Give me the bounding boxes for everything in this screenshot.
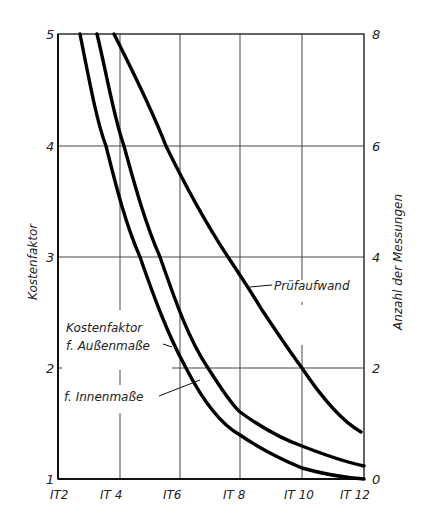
- y-tick-left-1: 1: [46, 472, 54, 487]
- x-tick-it8: IT 8: [223, 488, 246, 502]
- y-tick-left-5: 5: [46, 27, 54, 42]
- label-backdrop: [299, 305, 305, 345]
- x-tick-it2: IT2: [50, 488, 69, 502]
- annotation-kostenfaktor: Kostenfaktor: [66, 321, 143, 335]
- y-tick-right-4: 4: [372, 250, 380, 265]
- x-tick-it12: IT 12: [340, 488, 370, 502]
- annotation-pruefaufwand: Prüfaufwand: [274, 279, 350, 293]
- x-tick-it6: IT6: [163, 488, 182, 502]
- x-tick-it4: IT 4: [100, 488, 122, 502]
- annotation-innenmasse: f. Innenmaße: [64, 390, 143, 404]
- y-tick-right-6: 6: [372, 139, 380, 154]
- y-tick-right-2: 2: [372, 361, 380, 376]
- annotation-aussenmasse: f. Außenmaße: [66, 339, 150, 353]
- y-tick-left-2: 2: [46, 361, 54, 376]
- y-tick-right-0: 0: [372, 472, 380, 487]
- y-axis-right-title: Anzahl der Messungen: [391, 194, 405, 331]
- y-tick-left-3: 3: [46, 250, 54, 265]
- y-tick-right-8: 8: [372, 27, 380, 42]
- chart-canvas: 5 4 3 2 1 8 6 4 2 0 IT2 IT 4 IT6 IT 8 IT…: [0, 0, 424, 518]
- y-axis-left-title: Kostenfaktor: [26, 223, 40, 300]
- x-tick-it10: IT 10: [284, 488, 314, 502]
- y-tick-left-4: 4: [46, 139, 54, 154]
